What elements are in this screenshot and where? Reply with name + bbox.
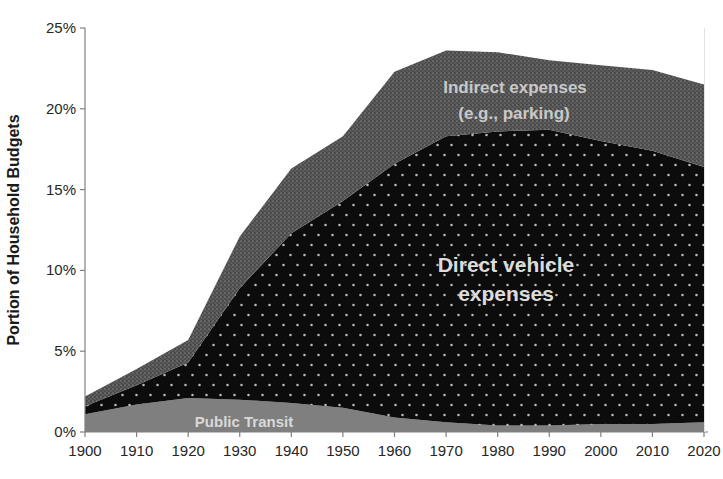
public-transit-area-label: Public Transit	[195, 413, 293, 430]
x-tick-label: 1980	[481, 442, 514, 459]
indirect-expenses-area-label-line1: Indirect expenses	[443, 78, 587, 97]
x-tick-label: 1930	[223, 442, 256, 459]
direct-vehicle-area-label-line2: expenses	[458, 282, 554, 305]
indirect-expenses-area-label-line2: (e.g., parking)	[458, 104, 569, 123]
x-tick-label: 2010	[636, 442, 669, 459]
y-tick-label: 25%	[46, 19, 76, 36]
direct-vehicle-expenses-area	[85, 130, 704, 426]
x-tick-label: 1960	[378, 442, 411, 459]
x-tick-label: 2020	[687, 442, 720, 459]
x-tick-label: 1910	[120, 442, 153, 459]
y-tick-label: 15%	[46, 181, 76, 198]
x-tick-label: 2000	[584, 442, 617, 459]
stacked-area-chart: 0%5%10%15%20%25%190019101920193019401950…	[0, 0, 723, 479]
x-tick-label: 1990	[533, 442, 566, 459]
direct-vehicle-area-label-line1: Direct vehicle	[438, 253, 575, 276]
y-tick-label: 5%	[54, 342, 76, 359]
area-series-group	[85, 51, 704, 432]
x-tick-label: 1900	[68, 442, 101, 459]
y-tick-label: 0%	[54, 423, 76, 440]
chart-figure: 0%5%10%15%20%25%190019101920193019401950…	[0, 0, 723, 479]
y-tick-label: 20%	[46, 100, 76, 117]
y-axis-title: Portion of Household Budgets	[5, 114, 22, 345]
x-tick-label: 1940	[275, 442, 308, 459]
x-tick-label: 1950	[326, 442, 359, 459]
x-tick-label: 1920	[171, 442, 204, 459]
y-tick-label: 10%	[46, 261, 76, 278]
x-tick-label: 1970	[429, 442, 462, 459]
